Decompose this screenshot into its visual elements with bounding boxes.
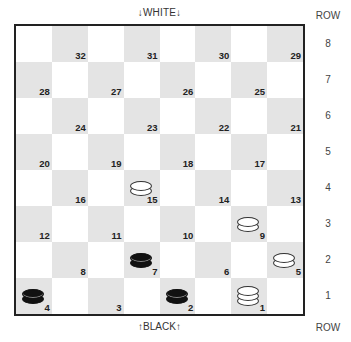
square-number: 5 [296,266,301,277]
board-square-light [267,62,303,98]
board-square-28[interactable]: 28 [16,62,52,98]
board-square-light [195,62,231,98]
board-square-7[interactable]: 7 [124,242,160,278]
board-square-23[interactable]: 23 [124,98,160,134]
board-square-light [160,98,196,134]
board-square-2[interactable]: 2 [160,278,196,314]
board-square-light [160,242,196,278]
board-square-light [231,170,267,206]
board-square-light [16,170,52,206]
white-side-label: ↓WHITE↓ [14,7,305,18]
board-square-24[interactable]: 24 [52,98,88,134]
board-square-6[interactable]: 6 [195,242,231,278]
square-number: 3 [116,302,121,313]
board-square-light [267,206,303,242]
square-number: 27 [111,86,122,97]
board-square-light [195,134,231,170]
board-square-31[interactable]: 31 [124,26,160,62]
board-square-8[interactable]: 8 [52,242,88,278]
square-number: 10 [183,230,194,241]
board-square-light [88,26,124,62]
square-number: 18 [183,158,194,169]
square-number: 22 [219,122,230,133]
board-square-19[interactable]: 19 [88,134,124,170]
board-square-light [88,170,124,206]
row-number: 7 [308,74,348,85]
board-square-27[interactable]: 27 [88,62,124,98]
piece-disc [273,253,295,263]
board-square-light [88,98,124,134]
board-square-21[interactable]: 21 [267,98,303,134]
board-square-22[interactable]: 22 [195,98,231,134]
square-number: 30 [219,50,230,61]
board-square-12[interactable]: 12 [16,206,52,242]
square-number: 31 [147,50,158,61]
board-square-10[interactable]: 10 [160,206,196,242]
board-square-18[interactable]: 18 [160,134,196,170]
square-number: 1 [260,302,265,313]
square-number: 32 [75,50,86,61]
board-square-light [52,62,88,98]
black-piece[interactable] [166,278,188,308]
square-number: 4 [45,302,50,313]
board-square-17[interactable]: 17 [231,134,267,170]
square-number: 6 [224,266,229,277]
board-square-light [16,98,52,134]
board-square-14[interactable]: 14 [195,170,231,206]
board-square-light [231,242,267,278]
piece-disc [22,289,44,299]
square-number: 12 [39,230,50,241]
white-piece[interactable] [130,170,152,200]
piece-disc [130,253,152,263]
piece-disc [166,289,188,299]
board-square-light [124,278,160,314]
row-number: 1 [308,290,348,301]
checkers-board: 3231302928272625242322212019181716151413… [14,24,305,316]
square-number: 26 [183,86,194,97]
board-square-29[interactable]: 29 [267,26,303,62]
white-piece[interactable] [237,206,259,236]
white-piece[interactable] [273,242,295,272]
black-piece[interactable] [22,278,44,308]
board-square-4[interactable]: 4 [16,278,52,314]
board-square-32[interactable]: 32 [52,26,88,62]
board-square-11[interactable]: 11 [88,206,124,242]
board-square-15[interactable]: 15 [124,170,160,206]
board-square-light [160,170,196,206]
square-number: 29 [290,50,301,61]
board-square-26[interactable]: 26 [160,62,196,98]
board-square-16[interactable]: 16 [52,170,88,206]
row-number: 6 [308,110,348,121]
board-square-light [124,134,160,170]
square-number: 16 [75,194,86,205]
square-number: 25 [255,86,266,97]
square-number: 14 [219,194,230,205]
board-square-light [124,206,160,242]
black-piece[interactable] [130,242,152,272]
board-square-light [195,206,231,242]
board-square-light [195,278,231,314]
black-side-label: ↑BLACK↑ [14,321,305,332]
board-square-20[interactable]: 20 [16,134,52,170]
board-square-light [160,26,196,62]
board-square-3[interactable]: 3 [88,278,124,314]
square-number: 24 [75,122,86,133]
white-king-piece[interactable] [237,278,259,308]
board-square-light [16,242,52,278]
board-square-25[interactable]: 25 [231,62,267,98]
board-square-light [88,242,124,278]
board-square-light [231,98,267,134]
square-number: 13 [290,194,301,205]
board-square-13[interactable]: 13 [267,170,303,206]
board-square-1[interactable]: 1 [231,278,267,314]
square-number: 7 [152,266,157,277]
row-number: 5 [308,146,348,157]
square-number: 21 [290,122,301,133]
board-square-30[interactable]: 30 [195,26,231,62]
board-square-light [124,62,160,98]
row-number: 8 [308,38,348,49]
board-square-9[interactable]: 9 [231,206,267,242]
board-square-5[interactable]: 5 [267,242,303,278]
square-number: 20 [39,158,50,169]
row-number: 4 [308,182,348,193]
